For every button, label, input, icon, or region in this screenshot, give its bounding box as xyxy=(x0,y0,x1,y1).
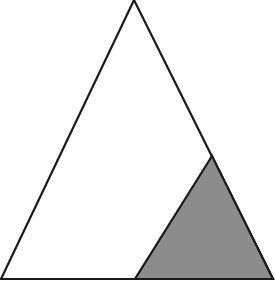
triangle-diagram xyxy=(0,0,275,300)
diagram-canvas xyxy=(0,0,275,300)
